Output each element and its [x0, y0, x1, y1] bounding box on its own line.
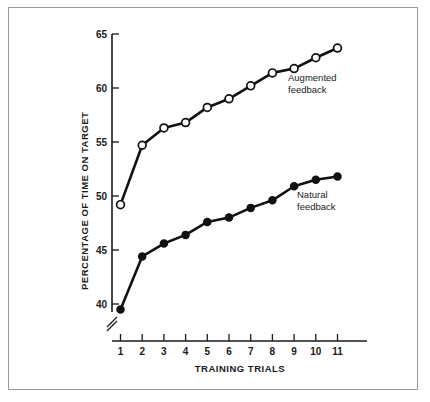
data-point	[182, 231, 189, 238]
y-axis-ticks	[112, 34, 119, 304]
y-tick-label-40: 40	[96, 299, 108, 310]
y-tick-label-50: 50	[96, 191, 108, 202]
x-tick-label-4: 4	[183, 346, 189, 357]
data-point	[334, 173, 341, 180]
x-tick-label-2: 2	[139, 346, 145, 357]
x-tick-label-1: 1	[118, 346, 124, 357]
x-tick-label-7: 7	[248, 346, 254, 357]
annotation-augmented-feedback: Augmented feedback	[288, 72, 337, 95]
x-tick-label-3: 3	[161, 346, 167, 357]
data-point	[117, 306, 124, 313]
series-markers-augmented	[117, 44, 342, 208]
x-axis-ticks	[121, 334, 338, 341]
data-point	[138, 141, 146, 149]
data-point	[334, 44, 342, 52]
data-point	[312, 176, 319, 183]
data-point	[247, 204, 254, 211]
x-tick-label-9: 9	[291, 346, 297, 357]
data-point	[247, 82, 255, 90]
chart-canvas: 404550556065 1234567891011 PERCENTAGE OF…	[0, 0, 430, 402]
x-tick-label-10: 10	[310, 346, 322, 357]
data-point	[203, 104, 211, 112]
data-point	[182, 119, 190, 127]
x-tick-label-6: 6	[226, 346, 232, 357]
y-axis-break-icon	[107, 317, 117, 331]
data-point	[226, 214, 233, 221]
data-point	[269, 69, 277, 77]
x-axis-tick-labels: 1234567891011	[118, 346, 344, 357]
data-point	[117, 201, 125, 209]
series-augmented-feedback	[117, 44, 342, 208]
data-point	[312, 54, 320, 62]
x-tick-label-5: 5	[205, 346, 211, 357]
data-point	[161, 240, 168, 247]
y-axis-group: 404550556065	[96, 29, 119, 331]
y-axis-tick-labels: 404550556065	[96, 29, 108, 310]
x-tick-label-11: 11	[332, 346, 343, 357]
annotation-augmented-line1: Augmented	[288, 72, 337, 83]
x-axis-group: 1234567891011	[112, 334, 367, 357]
data-point	[160, 124, 168, 132]
y-tick-label-45: 45	[96, 245, 108, 256]
annotation-natural-feedback: Natural feedback	[297, 189, 336, 212]
data-point	[225, 95, 233, 103]
x-tick-label-8: 8	[270, 346, 276, 357]
annotation-natural-line2: feedback	[297, 201, 336, 212]
x-axis-title: TRAINING TRIALS	[195, 363, 285, 374]
y-tick-label-65: 65	[96, 29, 108, 40]
y-tick-label-60: 60	[96, 83, 108, 94]
data-point	[269, 197, 276, 204]
y-tick-label-55: 55	[96, 137, 108, 148]
annotation-natural-line1: Natural	[297, 189, 328, 200]
figure-root: 404550556065 1234567891011 PERCENTAGE OF…	[0, 0, 430, 402]
y-axis-title: PERCENTAGE OF TIME ON TARGET	[79, 112, 90, 290]
data-point	[204, 219, 211, 226]
data-point	[139, 253, 146, 260]
annotation-augmented-line2: feedback	[288, 84, 327, 95]
